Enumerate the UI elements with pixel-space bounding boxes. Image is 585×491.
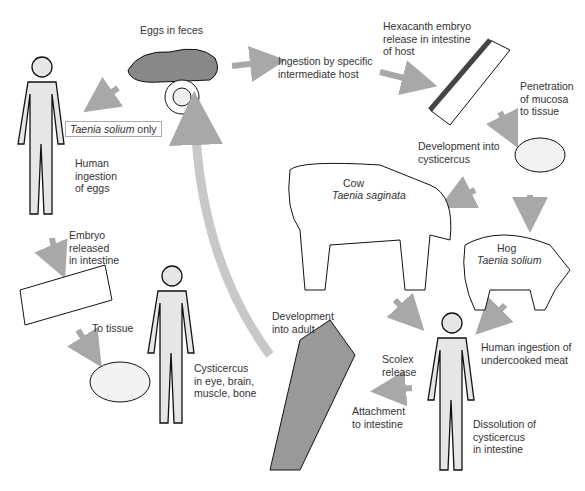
development-return-arrow [195,118,270,355]
adult-tapeworm-intestine-icon [270,320,355,470]
label-cow: Cow [343,177,364,190]
label-human-eggs: Human ingestion of eggs [75,157,117,195]
human-figure-icon [148,266,194,423]
label-dev-cysticercus: Development into cysticercus [418,140,500,165]
label-hog: Hog [497,242,516,255]
taenia-solium-only-box: Taenia solium only [65,121,162,137]
label-hog-species: Taenia solium [477,254,541,267]
human-figure-icon [428,313,474,470]
hog-icon [464,235,570,310]
taenia-life-cycle-diagram: Eggs in feces Ingestion by specific inte… [0,0,585,491]
label-dissolution: Dissolution of cysticercus in intestine [473,418,536,456]
cysticercus-icon [515,138,565,172]
label-scolex: Scolex release [382,353,416,378]
label-attachment: Attachment to intestine [352,405,405,430]
label-penetration: Penetration of mucosa to tissue [520,80,574,118]
intestine-wall-icon [20,265,112,325]
cysticercus-icon [90,362,150,402]
label-hexacanth: Hexacanth embryo release in intestine of… [383,20,471,58]
label-dev-adult: Development into adult [272,310,334,335]
label-ingestion-intermediate: Ingestion by specific intermediate host [278,55,373,80]
label-cysticercus-sites: Cysticercus in eye, brain, muscle, bone [194,362,256,400]
label-cow-species: Taenia saginata [332,189,406,202]
label-human-undercooked: Human ingestion of undercooked meat [481,341,571,366]
cow-icon [289,163,451,290]
label-embryo-released: Embryo released in intestine [69,229,119,267]
feces-egg-icon [128,49,218,114]
label-to-tissue: To tissue [92,322,133,335]
label-eggs-in-feces: Eggs in feces [140,24,203,37]
human-figure-icon [18,57,64,214]
